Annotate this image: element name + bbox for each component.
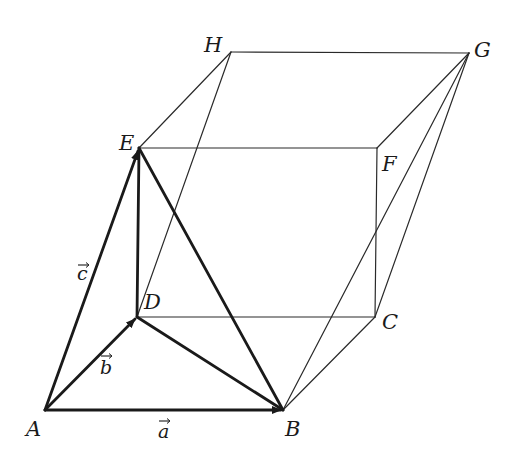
- label-G: G: [474, 38, 491, 62]
- thin-edges: [137, 52, 469, 410]
- vector-c-AE: [45, 151, 138, 410]
- label-D: D: [143, 290, 161, 314]
- edge-EH: [139, 52, 231, 148]
- edge-DE: [137, 148, 139, 317]
- vector-labels: c b a: [77, 262, 170, 442]
- edge-BG: [283, 53, 469, 410]
- edge-EB: [139, 148, 283, 410]
- edge-DB: [137, 317, 283, 410]
- label-E: E: [118, 131, 134, 155]
- vertex-labels: H G E F D C A B: [24, 33, 491, 441]
- parallelepiped-diagram: H G E F D C A B c b a: [0, 0, 515, 458]
- vector-label-b: b: [100, 356, 112, 378]
- edge-DH: [137, 52, 231, 317]
- edge-FG: [377, 53, 469, 148]
- edge-BC: [283, 317, 375, 410]
- label-C: C: [382, 310, 398, 334]
- label-H: H: [203, 33, 223, 57]
- label-B: B: [284, 417, 300, 441]
- label-F: F: [381, 152, 398, 176]
- label-A: A: [24, 417, 41, 441]
- edge-HG: [231, 52, 469, 53]
- vector-b-AD: [45, 319, 135, 410]
- edge-GC: [375, 53, 469, 317]
